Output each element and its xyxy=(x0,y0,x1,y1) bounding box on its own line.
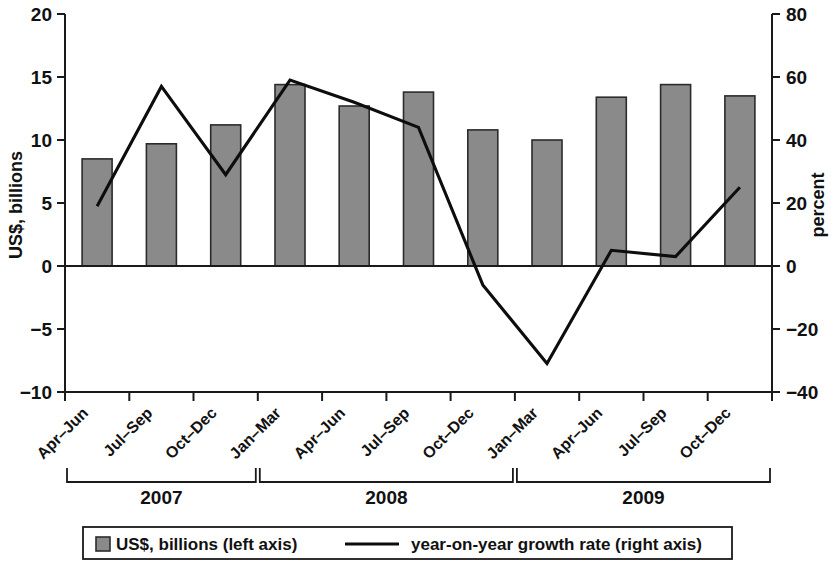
chart-figure: 20151050−5−10 806040200−20−40 Apr–JunJul… xyxy=(0,0,840,561)
bar-JulSep-9 xyxy=(661,85,691,266)
category-label-8: Apr–Jun xyxy=(548,404,606,462)
bar-AprJun-4 xyxy=(339,106,369,266)
year-label-2009: 2009 xyxy=(622,487,664,508)
left-tick-label-3: 5 xyxy=(41,193,52,214)
year-group-axis: 200720082009 xyxy=(67,468,770,508)
year-label-2008: 2008 xyxy=(365,487,407,508)
category-axis: Apr–JunJul–SepOct–DecJan–MarApr–JunJul–S… xyxy=(33,392,772,462)
right-tick-label-6: −40 xyxy=(786,382,818,403)
category-label-2: Oct–Dec xyxy=(162,404,220,462)
right-tick-label-3: 20 xyxy=(786,193,807,214)
category-label-5: Jul–Sep xyxy=(357,404,413,460)
right-axis-title: percent xyxy=(808,172,828,237)
category-label-4: Apr–Jun xyxy=(290,404,348,462)
left-tick-label-1: 15 xyxy=(31,67,53,88)
bar-JulSep-5 xyxy=(404,92,434,266)
category-label-1: Jul–Sep xyxy=(100,404,156,460)
right-tick-label-2: 40 xyxy=(786,130,807,151)
left-tick-label-5: −5 xyxy=(30,319,52,340)
category-label-7: Jan–Mar xyxy=(483,404,541,462)
chart-canvas: 20151050−5−10 806040200−20−40 Apr–JunJul… xyxy=(0,0,840,561)
bar-JulSep-1 xyxy=(146,144,176,266)
bar-JanMar-3 xyxy=(275,85,305,266)
left-axis: 20151050−5−10 xyxy=(20,4,65,403)
right-tick-label-4: 0 xyxy=(786,256,797,277)
bar-JanMar-7 xyxy=(532,140,562,266)
bar-AprJun-0 xyxy=(82,159,112,266)
year-bracket-2009 xyxy=(517,468,770,482)
chart-legend: US$, billions (left axis)year-on-year gr… xyxy=(83,527,732,559)
category-label-9: Jul–Sep xyxy=(614,404,670,460)
category-label-3: Jan–Mar xyxy=(226,404,284,462)
year-bracket-2008 xyxy=(260,468,513,482)
right-tick-label-5: −20 xyxy=(786,319,818,340)
bar-OctDec-6 xyxy=(468,130,498,266)
left-tick-label-4: 0 xyxy=(41,256,52,277)
category-label-10: Oct–Dec xyxy=(676,404,734,462)
year-bracket-2007 xyxy=(67,468,256,482)
right-tick-label-1: 60 xyxy=(786,67,807,88)
legend-swatch-bars xyxy=(96,537,110,551)
left-tick-label-2: 10 xyxy=(31,130,52,151)
right-tick-label-0: 80 xyxy=(786,4,807,25)
category-label-0: Apr–Jun xyxy=(33,404,91,462)
bar-OctDec-10 xyxy=(725,96,755,266)
year-label-2007: 2007 xyxy=(140,487,182,508)
legend-label-bars: US$, billions (left axis) xyxy=(116,535,297,554)
left-tick-label-6: −10 xyxy=(20,382,52,403)
bar-AprJun-8 xyxy=(596,97,626,266)
legend-label-growth: year-on-year growth rate (right axis) xyxy=(411,535,702,554)
bar-OctDec-2 xyxy=(211,125,241,266)
left-tick-label-0: 20 xyxy=(31,4,52,25)
left-axis-title: US$, billions xyxy=(6,151,26,259)
category-label-6: Oct–Dec xyxy=(419,404,477,462)
